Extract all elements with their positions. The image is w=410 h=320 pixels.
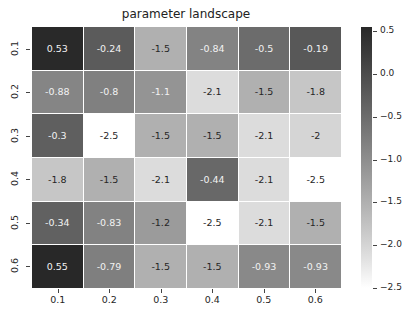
x-tick-label: 0.4 [197, 294, 227, 305]
heatmap-cell: -2.5 [290, 158, 341, 201]
x-tick [264, 289, 265, 293]
heatmap-cell: -0.79 [84, 245, 135, 288]
heatmap-cell: -1.8 [32, 158, 83, 201]
x-tick-label: 0.5 [249, 294, 279, 305]
heatmap-grid: 0.53-0.24-1.5-0.84-0.5-0.19-0.88-0.8-1.1… [32, 27, 341, 288]
heatmap-cell: -0.44 [187, 158, 238, 201]
colorbar-tick [373, 202, 377, 203]
colorbar-tick-label: 0.0 [380, 68, 394, 78]
x-tick [212, 289, 213, 293]
heatmap-cell: -1.5 [239, 71, 290, 114]
x-tick-label: 0.1 [43, 294, 73, 305]
colorbar-tick-label: −1.5 [380, 196, 402, 206]
y-tick [26, 92, 30, 93]
y-tick-label: 0.1 [9, 38, 20, 58]
heatmap-cell: -0.3 [32, 114, 83, 157]
colorbar-tick-label: −0.5 [380, 111, 402, 121]
heatmap-cell: 0.53 [32, 27, 83, 70]
y-tick-label: 0.2 [9, 82, 20, 102]
y-tick [26, 136, 30, 137]
heatmap-cell: -0.5 [239, 27, 290, 70]
heatmap-cell: 0.55 [32, 245, 83, 288]
heatmap-cell: -0.19 [290, 27, 341, 70]
colorbar-tick-label: −2.0 [380, 239, 402, 249]
heatmap-cell: -2.1 [239, 114, 290, 157]
heatmap-cell: -2.5 [84, 114, 135, 157]
heatmap-cell: -0.88 [32, 71, 83, 114]
colorbar-tick [373, 245, 377, 246]
heatmap-cell: -0.93 [290, 245, 341, 288]
y-tick-label: 0.3 [9, 125, 20, 145]
x-tick-label: 0.6 [300, 294, 330, 305]
heatmap-cell: -0.8 [84, 71, 135, 114]
colorbar [361, 27, 372, 288]
heatmap-cell: -0.93 [239, 245, 290, 288]
heatmap-cell: -0.84 [187, 27, 238, 70]
heatmap-cell: -1.1 [135, 71, 186, 114]
colorbar-tick [373, 31, 377, 32]
y-tick [26, 223, 30, 224]
x-tick [58, 289, 59, 293]
x-tick [161, 289, 162, 293]
y-tick-label: 0.5 [9, 212, 20, 232]
colorbar-tick-label: 0.5 [380, 25, 394, 35]
heatmap-cell: -1.8 [290, 71, 341, 114]
heatmap-cell: -2 [290, 114, 341, 157]
heatmap-cell: -1.2 [135, 202, 186, 245]
heatmap-cell: -1.5 [187, 114, 238, 157]
heatmap-cell: -0.24 [84, 27, 135, 70]
heatmap-cell: -1.5 [187, 245, 238, 288]
heatmap-cell: -2.1 [239, 202, 290, 245]
y-tick [26, 179, 30, 180]
heatmap-cell: -1.5 [84, 158, 135, 201]
colorbar-tick [373, 288, 377, 289]
heatmap-cell: -2.1 [135, 158, 186, 201]
y-tick-label: 0.6 [9, 256, 20, 276]
y-tick-label: 0.4 [9, 169, 20, 189]
heatmap-cell: -0.83 [84, 202, 135, 245]
heatmap-cell: -2.1 [239, 158, 290, 201]
heatmap-cell: -1.5 [135, 27, 186, 70]
colorbar-tick [373, 74, 377, 75]
heatmap-cell: -1.5 [290, 202, 341, 245]
x-tick-label: 0.2 [94, 294, 124, 305]
heatmap-cell: -1.5 [135, 114, 186, 157]
y-tick [26, 49, 30, 50]
colorbar-tick-label: −1.0 [380, 154, 402, 164]
y-tick [26, 266, 30, 267]
x-tick-label: 0.3 [146, 294, 176, 305]
heatmap-cell: -0.34 [32, 202, 83, 245]
colorbar-tick-label: −2.5 [380, 282, 402, 292]
colorbar-tick [373, 160, 377, 161]
colorbar-tick [373, 117, 377, 118]
heatmap-cell: -1.5 [135, 245, 186, 288]
x-tick [315, 289, 316, 293]
x-tick [109, 289, 110, 293]
heatmap-cell: -2.5 [187, 202, 238, 245]
chart-title: parameter landscape [32, 7, 340, 21]
heatmap-cell: -2.1 [187, 71, 238, 114]
